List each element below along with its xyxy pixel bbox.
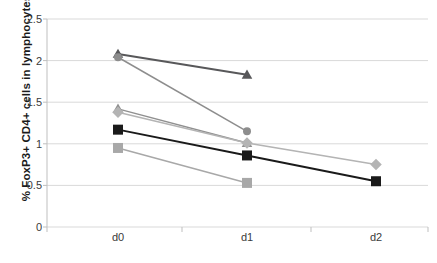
point-patient-5-d1 — [242, 150, 252, 160]
series-patient-2 — [114, 53, 251, 135]
point-patient-5-d2 — [371, 176, 381, 186]
series-patient-3 — [113, 104, 253, 147]
series-patient-1 — [113, 49, 253, 79]
line-patient-2 — [118, 57, 247, 131]
series-group — [112, 49, 382, 188]
series-patient-6 — [113, 143, 252, 188]
point-patient-6-d1 — [242, 178, 252, 188]
line-patient-1 — [118, 54, 247, 75]
point-patient-4-d0 — [112, 106, 124, 118]
series-patient-4 — [112, 106, 382, 170]
chart-container: % FoxP3+ CD4+ cells in lymphocytes 2.5 2… — [0, 0, 437, 263]
line-patient-6 — [118, 148, 247, 183]
plot-area — [0, 0, 437, 263]
point-patient-4-d2 — [370, 159, 382, 171]
point-patient-2-d1 — [243, 127, 251, 135]
point-patient-6-d0 — [113, 143, 123, 153]
point-patient-5-d0 — [113, 125, 123, 135]
point-patient-2-d0 — [114, 53, 122, 61]
point-patient-4-d1 — [241, 137, 253, 149]
